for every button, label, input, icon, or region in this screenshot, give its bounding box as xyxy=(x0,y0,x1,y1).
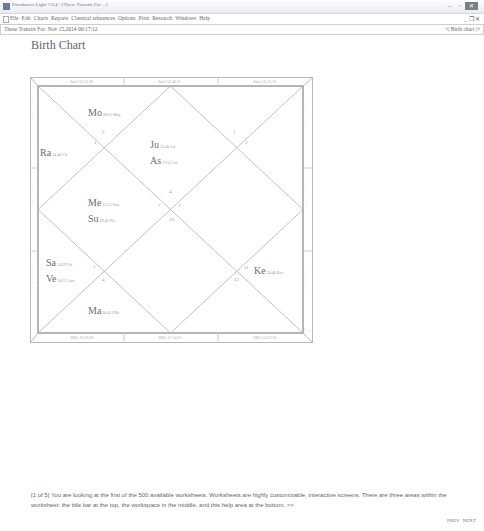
menu-research[interactable]: Research xyxy=(152,15,172,21)
window-titlebar[interactable]: Parashara's Light 7.0.4 - [These Transit… xyxy=(0,0,484,14)
menu-windows[interactable]: Windows xyxy=(175,15,196,21)
top-border-label: SatA 10 48:31 xyxy=(158,79,181,84)
mdi-window-controls[interactable]: _ ❐ ✕ xyxy=(464,15,480,22)
house-number: 1 xyxy=(178,203,181,208)
top-border-label: SatA 10 52:38 xyxy=(70,79,93,84)
menu-charts[interactable]: Charts xyxy=(34,15,48,21)
help-navigation: PREV NEXT xyxy=(447,518,476,523)
bottom-border-label: SMA 10 18:58 xyxy=(70,335,94,340)
house-number: 10 xyxy=(169,217,174,222)
house-number: 5 xyxy=(93,264,96,269)
house-number: 1 xyxy=(233,129,236,134)
right-strip-label: .. .. ... .... xyxy=(305,265,310,293)
chart-selector[interactable]: <| Birth chart |> xyxy=(445,26,480,32)
menu-reports[interactable]: Reports xyxy=(51,15,68,21)
help-area: [1 of 5] You are looking at the first of… xyxy=(31,490,473,510)
menu-print[interactable]: Print xyxy=(138,15,149,21)
planet-rahu[interactable]: Ra24:40 Cit xyxy=(40,147,67,158)
house-number: 4 xyxy=(169,189,172,194)
left-strip-label: ... .. .... xyxy=(31,99,36,121)
house-number: 2 xyxy=(245,140,248,145)
house-number: 7 xyxy=(158,203,161,208)
page-title: Birth Chart xyxy=(31,38,85,53)
menu-options[interactable]: Options xyxy=(118,15,135,21)
house-number: 1 xyxy=(94,140,97,145)
worksheet-header: These Transits For: Nov 15,2014 00:17:12… xyxy=(0,24,484,35)
help-text: [1 of 5] You are looking at the first of… xyxy=(31,492,447,508)
planet-venus[interactable]: Ve10:57 Anu xyxy=(46,273,74,284)
left-strip-label: ... ... .. ... xyxy=(31,265,36,293)
right-strip-label: .. ... .. .... xyxy=(305,180,310,208)
minimize-button[interactable]: – xyxy=(445,2,454,10)
menu-edit[interactable]: Edit xyxy=(22,15,31,21)
help-more-link[interactable]: >> xyxy=(287,502,294,508)
chart-lines xyxy=(30,77,313,343)
window-title: Parashara's Light 7.0.4 - [These Transit… xyxy=(12,2,107,7)
house-number: 12 xyxy=(234,277,239,282)
transits-date-label: These Transits For: Nov 15,2014 00:17:12 xyxy=(4,26,98,32)
house-number: 4 xyxy=(102,277,105,282)
app-icon xyxy=(3,3,10,10)
birth-chart[interactable]: SatA 10 52:38 SatA 10 48:31 SatA 10 53:1… xyxy=(30,77,313,343)
ascendant[interactable]: As27:53 Asl xyxy=(150,155,178,166)
close-button[interactable]: ✕ xyxy=(465,2,478,10)
bottom-border-label: SMA 12 14:33 xyxy=(158,335,182,340)
planet-jupiter[interactable]: Ju25:46 Asl xyxy=(150,139,175,150)
window-controls: – ▫ ✕ xyxy=(445,2,478,10)
planet-mars[interactable]: Ma20:41 PSh xyxy=(88,305,119,316)
planet-moon[interactable]: Mo09:51 Mag xyxy=(88,107,120,118)
bottom-border-label: SMA 10 07:35 xyxy=(253,335,277,340)
menu-classical-references[interactable]: Classical references xyxy=(71,15,115,21)
planet-ketu[interactable]: Ke24:40 Rev xyxy=(254,265,283,276)
menu-help[interactable]: Help xyxy=(199,15,210,21)
prev-button[interactable]: PREV xyxy=(447,518,460,523)
document-icon[interactable] xyxy=(3,16,9,23)
left-strip-label: .. ... .. ... xyxy=(31,180,36,206)
planet-saturn[interactable]: Sa14:29 Vis xyxy=(46,257,72,268)
planet-mercury[interactable]: Me12:33 Swa xyxy=(88,197,119,208)
next-button[interactable]: NEXT xyxy=(463,518,476,523)
right-strip-label: .. ... .. .... xyxy=(305,99,310,127)
restore-button[interactable]: ▫ xyxy=(455,2,464,10)
house-number: 11 xyxy=(244,265,249,270)
house-number: 2 xyxy=(102,129,105,134)
menu-file[interactable]: File xyxy=(10,15,19,21)
top-border-label: SatA 10 53:18 xyxy=(253,79,276,84)
planet-sun[interactable]: Su28:45 Vis xyxy=(88,213,115,224)
menubar: File Edit Charts Reports Classical refer… xyxy=(0,14,484,24)
